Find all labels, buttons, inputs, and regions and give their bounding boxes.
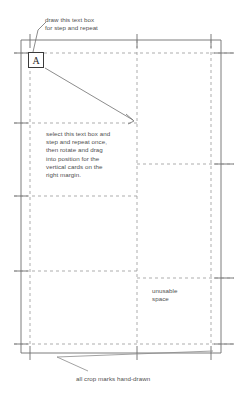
arrow-head xyxy=(126,114,134,124)
annotation-unusable-space: unusable space xyxy=(152,287,178,303)
guide-grid-group xyxy=(14,40,234,346)
step-repeat-arrow xyxy=(45,68,134,124)
leader-line-bottom-note xyxy=(57,351,213,371)
page-border-group xyxy=(21,40,221,353)
text-box-a[interactable]: A xyxy=(28,52,44,68)
crop-marks-group xyxy=(14,34,234,360)
annotation-crop-marks-hand-drawn: all crop marks hand-drawn xyxy=(76,375,150,383)
diagram-canvas: A draw this text box for step and repeat… xyxy=(0,0,237,394)
annotation-step-and-repeat-instructions: select this text box and step and repeat… xyxy=(46,130,110,179)
annotation-draw-text-box: draw this text box for step and repeat xyxy=(45,16,98,32)
arrow-shaft xyxy=(45,68,133,120)
text-box-a-letter: A xyxy=(29,54,43,67)
